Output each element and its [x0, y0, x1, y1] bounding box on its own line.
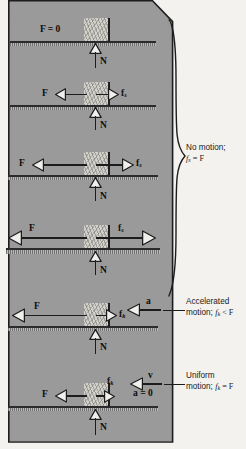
- scene-6-kinetic-uniform: F fk N: [0, 364, 164, 441]
- friction-arrow-head: [104, 390, 115, 403]
- normal-force-label: N: [100, 121, 107, 131]
- normal-force-label: N: [100, 266, 107, 276]
- friction-force-label: fs: [121, 89, 127, 99]
- callout-uniform-line2: motion; fk = F: [186, 382, 233, 394]
- applied-force-label: F = 0: [40, 25, 60, 35]
- friction-arrow-head: [142, 230, 156, 246]
- applied-force-label: F: [42, 89, 48, 99]
- ground-hatch: [6, 250, 160, 254]
- callout-accelerated-line1: Accelerated: [186, 297, 233, 308]
- accelerated-callout-leader: [163, 310, 185, 311]
- applied-force-label: F: [34, 302, 40, 312]
- normal-arrow-shaft: [95, 418, 97, 435]
- normal-force-label: N: [100, 192, 107, 202]
- callout-uniform: Uniform motion; fk = F: [186, 371, 233, 393]
- normal-force-label: N: [100, 57, 107, 67]
- scene-5-kinetic-accelerating: F fk N: [0, 288, 164, 364]
- figure-root: F = 0 N F fs N: [0, 0, 246, 449]
- applied-force-arrow-shaft: [21, 237, 87, 239]
- friction-arrow-head: [108, 88, 119, 101]
- ground-hatch: [10, 107, 156, 110]
- friction-arrow-head: [122, 158, 134, 172]
- applied-force-arrow-shaft: [43, 164, 87, 166]
- friction-subscript: s: [139, 161, 142, 168]
- callout-accelerated: Accelerated motion; fk < F: [186, 297, 233, 319]
- scene-1-no-applied-force: F = 0 N: [0, 0, 164, 72]
- acceleration-label: a: [146, 297, 151, 307]
- friction-subscript: k: [122, 312, 125, 319]
- callout-uniform-prefix: motion;: [186, 382, 215, 391]
- normal-force-label: N: [100, 423, 107, 433]
- applied-force-arrow-shaft: [66, 395, 87, 397]
- velocity-label: v: [148, 371, 153, 381]
- friction-force-label: fs: [136, 159, 142, 169]
- ground-hatch: [10, 43, 156, 46]
- applied-force-arrow-shaft: [65, 94, 87, 96]
- friction-subscript: k: [110, 379, 113, 386]
- applied-force-label: F: [29, 224, 35, 234]
- zero-acceleration-label: a = 0: [133, 389, 153, 399]
- static-friction-relation: = F: [191, 154, 204, 163]
- acceleration-arrow-shaft: [139, 309, 161, 311]
- kinetic-friction-relation: < F: [220, 308, 233, 317]
- applied-force-label: F: [42, 390, 48, 400]
- friction-subscript: s: [124, 91, 127, 98]
- applied-force-arrow-head: [8, 230, 22, 246]
- callout-accelerated-prefix: motion;: [186, 308, 215, 317]
- normal-arrow-shaft: [95, 52, 97, 68]
- friction-subscript: s: [121, 226, 124, 233]
- no-motion-brace: [166, 18, 188, 298]
- callout-no-motion: No motion; fs = F: [186, 143, 226, 165]
- friction-arrow-head: [106, 309, 117, 322]
- normal-arrow-shaft: [95, 260, 97, 275]
- normal-arrow-shaft: [95, 186, 97, 201]
- scene-4-max-static: F fs N: [0, 214, 164, 288]
- friction-arrow-shaft: [96, 237, 144, 239]
- applied-force-label: F: [19, 159, 25, 169]
- callout-no-motion-line2: fs = F: [186, 154, 226, 166]
- applied-force-arrow-shaft: [24, 315, 87, 317]
- normal-arrow-shaft: [95, 338, 97, 354]
- callout-no-motion-line1: No motion;: [186, 143, 226, 154]
- normal-force-label: N: [100, 343, 107, 353]
- scene-2-small-static: F fs N: [0, 72, 164, 142]
- ground-hatch: [8, 328, 158, 331]
- callout-uniform-line1: Uniform: [186, 371, 233, 382]
- kinetic-friction-relation-uniform: = F: [220, 382, 233, 391]
- ground-hatch: [8, 177, 158, 180]
- block: [84, 18, 110, 42]
- scene-3-medium-static: F fs N: [0, 142, 164, 214]
- uniform-callout-leader: [164, 384, 185, 385]
- ground-hatch: [8, 408, 158, 411]
- normal-arrow-shaft: [95, 116, 97, 130]
- friction-arrow-shaft: [96, 164, 124, 166]
- friction-force-label: fs: [118, 224, 124, 234]
- friction-force-label: fk: [119, 310, 125, 320]
- friction-force-label: fk: [107, 377, 113, 387]
- callout-accelerated-line2: motion; fk < F: [186, 308, 233, 320]
- velocity-arrow-shaft: [142, 383, 162, 385]
